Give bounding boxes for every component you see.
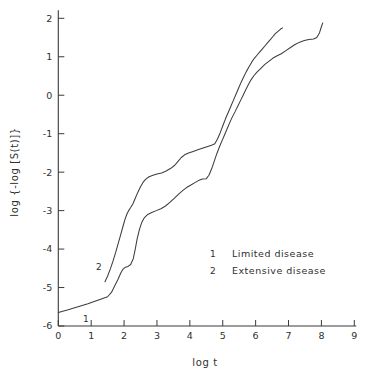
y-tick-label: -6 [43,320,52,331]
y-tick-label: 0 [46,90,52,101]
x-tick-label: 5 [220,330,226,341]
legend-label-2: Extensive disease [232,265,326,276]
y-tick-label: -1 [43,128,52,139]
x-tick-label: 1 [88,330,94,341]
x-tick-label: 0 [55,330,61,341]
chart-figure: 0123456789 210-1-2-3-4-5-6 12 log t log … [0,0,371,377]
y-axis-title: log {-log [S(t)]} [9,127,20,216]
y-tick-label: -3 [43,205,52,216]
x-tick-label: 4 [187,330,193,341]
x-tick-label: 8 [318,330,324,341]
y-tick-label: -5 [43,282,52,293]
legend-label-1: Limited disease [232,248,314,259]
x-axis-ticks [58,320,354,326]
curve-2 [105,28,283,282]
curve-inline-tags: 12 [83,262,102,324]
y-axis-ticks [58,18,64,326]
legend: 1 Limited disease 2 Extensive disease [210,248,326,276]
x-tick-label: 2 [121,330,127,341]
x-tick-label: 9 [351,330,357,341]
x-tick-label: 7 [285,330,291,341]
y-tick-label: 1 [46,51,52,62]
x-axis-tick-labels: 0123456789 [55,330,357,341]
legend-marker-2: 2 [210,266,216,276]
y-tick-label: -2 [43,167,52,178]
legend-marker-1: 1 [210,249,216,259]
x-axis-title: log t [192,357,217,368]
axes [58,10,356,326]
curve-tag-1: 1 [83,314,89,324]
x-tick-label: 6 [253,330,259,341]
curve-tag-2: 2 [96,262,102,272]
y-tick-label: -4 [43,243,52,254]
x-tick-label: 3 [154,330,160,341]
y-tick-label: 2 [46,13,52,24]
chart-svg: 0123456789 210-1-2-3-4-5-6 12 log t log … [0,0,371,377]
y-axis-tick-labels: 210-1-2-3-4-5-6 [43,13,52,332]
